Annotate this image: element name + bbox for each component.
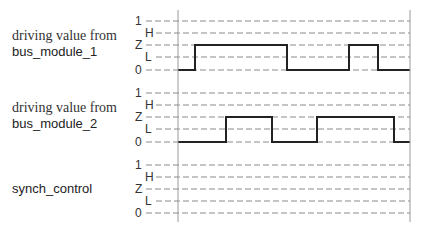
level-gridlines — [146, 165, 410, 213]
level-label-h: H — [145, 98, 154, 112]
level-label-1: 1 — [135, 158, 142, 172]
signal-caption-line1: driving value from — [12, 100, 117, 115]
signal-synch-control: synch_control 1 H Z L 0 — [12, 158, 410, 220]
signal-bus-module-1: driving value from bus_module_1 1 H Z L … — [12, 14, 410, 77]
level-label-z: Z — [135, 38, 142, 52]
level-label-l: L — [145, 50, 152, 64]
signal-bus-module-2: driving value from bus_module_2 1 H Z L … — [12, 86, 410, 149]
level-label-0: 0 — [135, 135, 142, 149]
level-label-1: 1 — [135, 14, 142, 28]
level-label-z: Z — [135, 110, 142, 124]
level-label-0: 0 — [135, 63, 142, 77]
level-label-h: H — [145, 26, 154, 40]
level-label-h: H — [145, 170, 154, 184]
signal-caption-name: synch_control — [12, 181, 92, 196]
timing-diagram: driving value from bus_module_1 1 H Z L … — [0, 0, 428, 235]
signal-caption-line1: driving value from — [12, 28, 117, 43]
level-label-l: L — [145, 122, 152, 136]
level-label-l: L — [145, 194, 152, 208]
level-label-0: 0 — [135, 206, 142, 220]
level-label-1: 1 — [135, 86, 142, 100]
signal-caption-name: bus_module_2 — [12, 116, 97, 131]
level-label-z: Z — [135, 182, 142, 196]
signal-caption-name: bus_module_1 — [12, 44, 97, 59]
